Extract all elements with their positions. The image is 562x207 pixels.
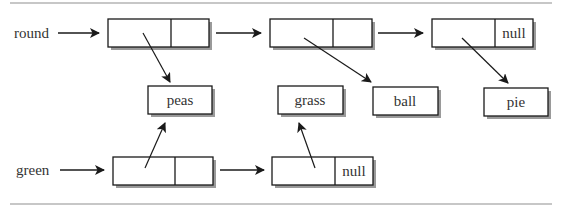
- value-box-peas: peas: [148, 86, 215, 117]
- value-label-ball: ball: [394, 93, 417, 109]
- green-node-2: null: [272, 157, 376, 188]
- value-label-peas: peas: [167, 92, 194, 108]
- value-box-ball: ball: [373, 87, 441, 118]
- value-label-grass: grass: [295, 92, 326, 108]
- round-null-label: null: [502, 25, 525, 41]
- round-node-3: null: [432, 19, 536, 50]
- value-box-pie: pie: [484, 88, 551, 119]
- list-label-round: round: [14, 25, 49, 41]
- green-null-label: null: [342, 163, 365, 179]
- round-node-1: [108, 19, 212, 50]
- green-node-1: [113, 157, 216, 188]
- linked-list-diagram: round null peas grass ball: [0, 0, 562, 207]
- value-label-pie: pie: [507, 94, 526, 110]
- list-label-green: green: [16, 162, 50, 178]
- value-box-grass: grass: [278, 86, 346, 117]
- round-node-2: [270, 19, 375, 50]
